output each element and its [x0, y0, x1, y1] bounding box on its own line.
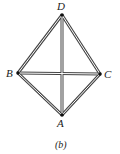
label-a: A [57, 118, 64, 129]
vertices [16, 13, 102, 117]
edges-outer [18, 15, 100, 115]
label-d: D [57, 1, 65, 12]
vertex-d [60, 13, 64, 17]
label-b: B [6, 68, 13, 79]
tetrahedron-diagram [0, 0, 120, 154]
vertex-c [98, 72, 102, 76]
vertex-b [16, 71, 20, 75]
label-c: C [104, 69, 111, 80]
figure-caption: (b) [55, 140, 67, 150]
edges-inner [18, 15, 100, 115]
